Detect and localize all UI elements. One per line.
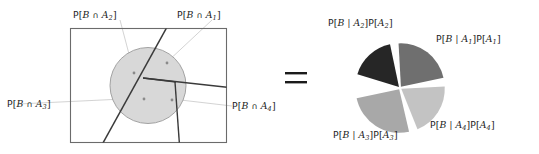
equals-bar-top (285, 72, 307, 74)
label-pie-a2: P[B | A2]P[A2] (328, 18, 393, 28)
equals-bar-bottom (285, 81, 307, 83)
label-b-cap-a1: P[B ∩ A1] (177, 10, 221, 20)
region-dot-a1 (166, 62, 169, 65)
region-dot-a3 (143, 98, 146, 101)
figure-root: P[B ∩ A2] P[B ∩ A1] P[B ∩ A3] P[B ∩ A4] … (0, 0, 539, 154)
region-dot-a4 (171, 99, 174, 102)
label-b-cap-a4: P[B ∩ A4] (232, 101, 276, 111)
pie-slice-a1 (399, 43, 444, 86)
left-panel-group (18, 18, 234, 152)
pie-slice-a3 (357, 89, 409, 133)
figure-graphics (0, 0, 539, 154)
equals-sign (285, 72, 307, 83)
label-b-cap-a2: P[B ∩ A2] (73, 10, 117, 20)
label-pie-a1: P[B | A1]P[A1] (436, 34, 501, 44)
pie-slice-a2 (357, 44, 399, 87)
label-pie-a4: P[B | A4]P[A4] (430, 120, 495, 130)
label-pie-a3: P[B | A3]P[A3] (333, 130, 398, 140)
region-dot-a2 (133, 72, 136, 75)
label-b-cap-a3: P[B ∩ A3] (7, 99, 51, 109)
